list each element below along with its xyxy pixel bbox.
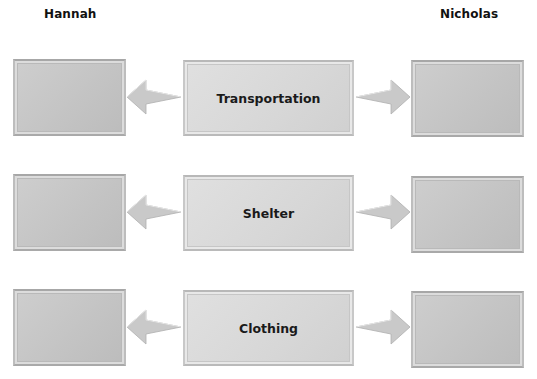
nicholas-transportation-box[interactable]	[411, 60, 524, 137]
left-arrow-icon	[125, 194, 183, 232]
category-box-transportation: Transportation	[183, 60, 354, 136]
hannah-shelter-box[interactable]	[13, 174, 126, 251]
right-arrow-icon	[354, 194, 412, 232]
left-arrow-icon	[125, 79, 183, 117]
header-hannah: Hannah	[44, 7, 96, 21]
hannah-clothing-box[interactable]	[13, 289, 126, 366]
right-arrow-icon	[354, 309, 412, 347]
category-label: Transportation	[217, 91, 321, 106]
category-label: Clothing	[239, 321, 298, 336]
category-box-clothing: Clothing	[183, 290, 354, 366]
category-label: Shelter	[243, 206, 294, 221]
header-nicholas: Nicholas	[440, 7, 498, 21]
hannah-transportation-box[interactable]	[13, 59, 126, 136]
category-box-shelter: Shelter	[183, 175, 354, 251]
nicholas-clothing-box[interactable]	[411, 291, 524, 368]
nicholas-shelter-box[interactable]	[411, 176, 524, 253]
right-arrow-icon	[354, 79, 412, 117]
left-arrow-icon	[125, 309, 183, 347]
